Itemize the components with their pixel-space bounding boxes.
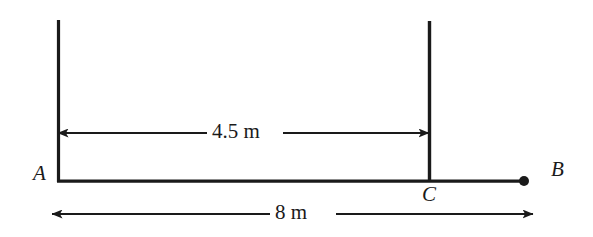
dimension-label-ab: 8 m bbox=[270, 202, 312, 223]
point-label-b: B bbox=[551, 159, 564, 180]
point-marker-b bbox=[519, 176, 529, 186]
dimension-label-ac: 4.5 m bbox=[207, 121, 265, 142]
point-label-c: C bbox=[422, 184, 436, 205]
beam-diagram: A C B 4.5 m 8 m bbox=[0, 0, 593, 237]
point-label-a: A bbox=[33, 163, 46, 184]
